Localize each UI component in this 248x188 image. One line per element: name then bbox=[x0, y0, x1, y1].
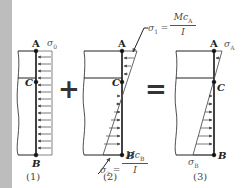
plus-operator: + bbox=[58, 76, 80, 102]
sigma-a-label: σA bbox=[224, 40, 235, 51]
panel-1-beam bbox=[17, 49, 52, 157]
panel-3-beam bbox=[175, 49, 222, 157]
point-c-label-1: C bbox=[25, 78, 33, 88]
sigma-1-fraction: McA I bbox=[170, 12, 196, 37]
caption-2: (2) bbox=[103, 172, 117, 182]
point-a-label-3: A bbox=[210, 39, 218, 49]
sigma-2-fraction: McB I bbox=[122, 150, 148, 175]
point-c-label-2: C bbox=[112, 78, 120, 88]
caption-3: (3) bbox=[193, 172, 207, 182]
point-b-label-1: B bbox=[32, 159, 40, 169]
point-c-label-3: C bbox=[217, 83, 225, 93]
caption-1: (1) bbox=[26, 172, 40, 182]
point-a-label-2: A bbox=[118, 39, 126, 49]
point-a-label-1: A bbox=[32, 39, 40, 49]
sigma-b-label: σB bbox=[188, 158, 199, 169]
sigma-1-lhs: σ1 = bbox=[148, 24, 168, 35]
equals-operator: = bbox=[145, 76, 167, 102]
point-b-label-3: B bbox=[218, 151, 226, 161]
sigma-0-label: σ0 bbox=[47, 39, 57, 50]
